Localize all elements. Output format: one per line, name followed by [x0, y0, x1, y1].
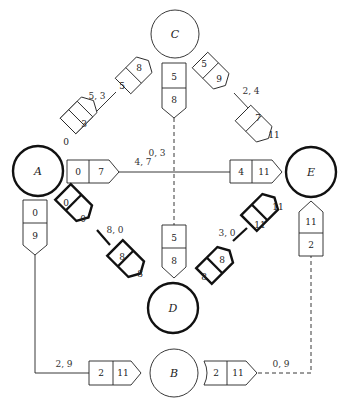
edge-c-e-tail-box — [192, 52, 233, 93]
edge-d-e-label: 3, 0 — [218, 228, 235, 238]
edge-c-e-head-0: 7 — [255, 113, 261, 123]
edge-a-d-head-1: 8 — [137, 269, 143, 279]
edge-b-e-label: 0, 9 — [272, 359, 289, 369]
edge-a-d-tail-1: 0 — [80, 214, 86, 224]
edge-a-c-tail-1: 3 — [81, 119, 87, 129]
edge-a-d-tail-box — [55, 184, 96, 225]
edge-a-e-label: 4, 7 — [134, 157, 151, 167]
edge-a-b-tail-0: 0 — [32, 208, 38, 218]
network-diagram: A B C D E 0 3 5 8 5, 3 5 9 7 11 2, 4 — [0, 0, 348, 404]
edge-c-e-tail-1: 9 — [216, 74, 222, 84]
edge-a-b-label: 2, 9 — [55, 359, 72, 369]
edge-c-d-head-1: 8 — [171, 256, 177, 266]
edge-c-e-head-1: 11 — [268, 130, 279, 140]
edge-a-e-head-1: 11 — [258, 167, 269, 177]
edge-d-e-head-0: 11 — [254, 220, 265, 230]
node-e[interactable]: E — [286, 147, 336, 197]
edge-c-e-label: 2, 4 — [242, 86, 259, 96]
edge-a-c-head-1: 8 — [136, 63, 142, 73]
edge-a-d-head-0: 8 — [119, 252, 125, 262]
edge-c-e-tail-0: 5 — [201, 59, 207, 69]
node-c-label: C — [171, 28, 180, 41]
edge-line-b-e — [258, 256, 311, 373]
edge-a-b-tail-1: 9 — [32, 231, 38, 241]
edge-c-e-head-box — [235, 105, 276, 146]
edge-a-e-tail-0: 0 — [75, 167, 81, 177]
edge-a-b-head-0: 2 — [98, 368, 104, 378]
node-a[interactable]: A — [13, 146, 63, 196]
edge-d-e-tail-0: 8 — [201, 272, 207, 282]
node-b-label: B — [169, 367, 178, 380]
edge-a-e-head-0: 4 — [238, 167, 244, 177]
node-d[interactable]: D — [148, 283, 198, 333]
node-c[interactable]: C — [151, 10, 199, 58]
node-d-label: D — [168, 302, 178, 315]
edge-b-e-tail-box — [204, 361, 257, 385]
edge-c-d-tail-0: 5 — [171, 72, 177, 82]
edge-b-e-head-0: 11 — [305, 217, 316, 227]
edge-b-e-head-1: 2 — [308, 240, 314, 250]
edge-c-d-tail-1: 8 — [171, 95, 177, 105]
edge-c-d-head-0: 5 — [171, 233, 177, 243]
node-a-label: A — [33, 165, 42, 178]
edge-a-b-head-1: 11 — [117, 368, 128, 378]
edge-b-e-tail-0: 2 — [213, 368, 219, 378]
node-b[interactable]: B — [150, 349, 198, 397]
edge-line-a-b — [35, 255, 89, 373]
edge-a-c-label: 5, 3 — [88, 91, 105, 101]
edge-a-e-tail-1: 7 — [98, 167, 104, 177]
edge-d-e-tail-1: 8 — [219, 255, 225, 265]
edge-a-d-label: 8, 0 — [106, 225, 123, 235]
edge-a-b-head-box — [89, 361, 141, 385]
edge-d-e-head-1: 11 — [272, 202, 283, 212]
edge-b-e-tail-1: 11 — [232, 368, 243, 378]
edge-a-d-tail-0: 0 — [63, 198, 69, 208]
edge-a-c-head-0: 5 — [119, 81, 125, 91]
node-e-label: E — [306, 166, 315, 179]
edge-a-c-tail-0: 0 — [63, 137, 69, 147]
